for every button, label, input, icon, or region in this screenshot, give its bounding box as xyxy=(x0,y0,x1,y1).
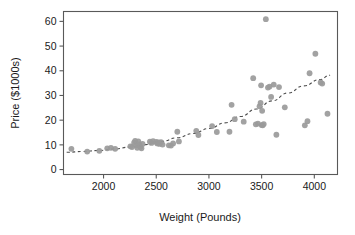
y-tick-label: 0 xyxy=(51,163,57,175)
data-point xyxy=(319,81,325,87)
data-point xyxy=(307,70,313,76)
data-point xyxy=(276,84,282,90)
data-point xyxy=(312,51,318,57)
y-tick-label: 50 xyxy=(45,40,57,52)
x-tick-label: 3500 xyxy=(250,180,274,192)
data-point xyxy=(325,111,331,117)
data-point xyxy=(84,149,90,155)
plot-frame xyxy=(64,12,338,175)
data-point xyxy=(229,102,235,108)
data-point xyxy=(209,123,215,129)
x-axis-title: Weight (Pounds) xyxy=(159,211,241,223)
data-point xyxy=(140,141,146,147)
data-point xyxy=(305,118,311,124)
data-point xyxy=(259,108,265,114)
y-tick-label: 60 xyxy=(45,15,57,27)
data-point xyxy=(268,94,274,100)
data-point xyxy=(261,121,267,127)
y-tick-label: 30 xyxy=(45,89,57,101)
data-point xyxy=(271,82,277,88)
y-tick-label: 40 xyxy=(45,64,57,76)
x-tick-label: 3000 xyxy=(197,180,221,192)
data-point xyxy=(174,129,180,135)
data-point xyxy=(69,146,75,152)
data-point xyxy=(263,16,269,22)
x-axis-tick-labels: 20002500300035004000 xyxy=(92,180,326,192)
x-tick-label: 2000 xyxy=(92,180,116,192)
data-point xyxy=(258,100,264,106)
scatter-plot-figure: 0102030405060 20002500300035004000 Weigh… xyxy=(0,0,355,235)
data-point xyxy=(112,146,118,152)
y-tick-label: 20 xyxy=(45,114,57,126)
y-tick-label: 10 xyxy=(45,139,57,151)
data-point xyxy=(282,104,288,110)
x-tick-label: 2500 xyxy=(145,180,169,192)
x-tick-label: 4000 xyxy=(303,180,327,192)
data-point xyxy=(258,82,264,88)
data-point xyxy=(96,148,102,154)
data-point xyxy=(214,129,220,135)
y-axis-title: Price ($1000s) xyxy=(9,57,21,129)
data-point xyxy=(241,119,247,125)
x-axis-ticks xyxy=(104,175,315,179)
data-point xyxy=(176,139,182,145)
data-point xyxy=(250,75,256,81)
trend-line-group xyxy=(67,75,330,152)
data-point xyxy=(227,129,233,135)
data-point xyxy=(232,116,238,122)
data-point xyxy=(273,132,279,138)
y-axis-tick-labels: 0102030405060 xyxy=(45,15,57,175)
data-point xyxy=(170,140,176,146)
y-axis-ticks xyxy=(60,21,64,169)
trend-line xyxy=(67,75,330,152)
data-point xyxy=(195,132,201,138)
plot-canvas: 0102030405060 20002500300035004000 Weigh… xyxy=(0,0,355,235)
data-points-group xyxy=(69,16,331,154)
data-point xyxy=(160,142,166,148)
